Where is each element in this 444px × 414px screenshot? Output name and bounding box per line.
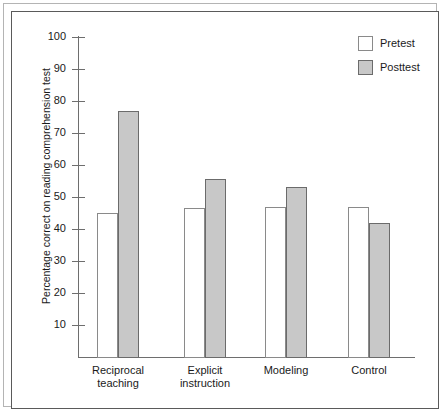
y-axis-tick [72, 133, 85, 134]
y-axis-tick-label: 30 [26, 255, 66, 266]
y-axis-tick-label: 20 [26, 287, 66, 298]
y-axis-tick [72, 293, 85, 294]
legend-swatch-posttest [358, 60, 373, 75]
y-axis-tick-label: 70 [26, 127, 66, 138]
y-axis-tick [72, 261, 85, 262]
y-axis-tick [72, 37, 85, 38]
y-axis-tick-label: 100 [26, 31, 66, 42]
y-axis-tick-label: 10 [26, 319, 66, 330]
y-axis-tick [72, 101, 85, 102]
x-axis-group-label: Control [309, 364, 429, 377]
chart-legend: Pretest Posttest [358, 31, 420, 79]
x-axis-group-label-line: instruction [145, 377, 265, 390]
legend-swatch-pretest [358, 36, 373, 51]
legend-label-pretest: Pretest [380, 37, 415, 49]
bar-pretest-1 [184, 208, 205, 358]
x-axis-group-label-line: Control [309, 364, 429, 377]
bar-pretest-3 [348, 207, 369, 358]
legend-item-posttest: Posttest [358, 55, 420, 79]
bar-pretest-2 [265, 207, 286, 358]
y-axis-tick-label: 50 [26, 191, 66, 202]
y-axis-tick [72, 69, 85, 70]
bar-posttest-1 [205, 179, 226, 358]
y-axis-tick-label: 40 [26, 223, 66, 234]
legend-label-posttest: Posttest [380, 61, 420, 73]
bar-posttest-0 [118, 111, 139, 358]
y-axis-tick [72, 197, 85, 198]
y-axis-tick-label: 80 [26, 95, 66, 106]
bar-chart: Percentage correct on reading comprehens… [0, 0, 444, 414]
y-axis-tick [72, 165, 85, 166]
y-axis-tick-label: 90 [26, 63, 66, 74]
legend-item-pretest: Pretest [358, 31, 420, 55]
y-axis-tick-label: 60 [26, 159, 66, 170]
y-axis-tick [72, 325, 85, 326]
bar-posttest-2 [286, 187, 307, 358]
y-axis-tick [72, 229, 85, 230]
bar-posttest-3 [369, 223, 390, 358]
bar-pretest-0 [97, 213, 118, 358]
